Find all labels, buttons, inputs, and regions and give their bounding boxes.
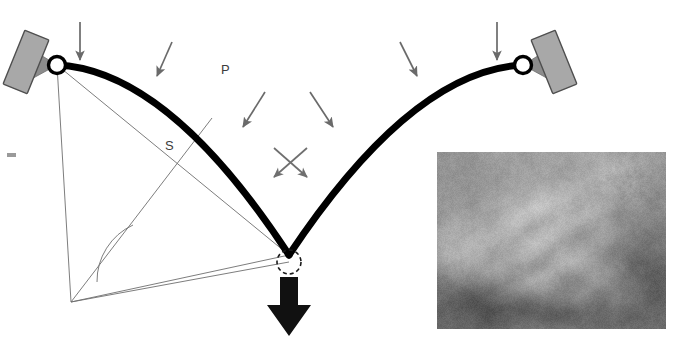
geometry-line-chord-pin-apex [57, 65, 289, 255]
construction-lines [57, 65, 289, 302]
thrust-arrow [267, 277, 311, 336]
geometry-line-base-joint [71, 262, 289, 302]
distributed-load-arrows [80, 22, 497, 127]
load-label-p: P [221, 62, 230, 77]
load-arrow-5 [400, 42, 417, 76]
left-edge-mark [7, 153, 16, 157]
load-arrow-3 [243, 92, 265, 127]
geometry-line-base-apex [71, 255, 289, 302]
angle-arc [97, 225, 133, 282]
right-pin-joint [515, 57, 532, 74]
anatomical-photo-inset [437, 152, 666, 329]
geometry-line-left-vertical [57, 65, 71, 302]
photo-canvas [437, 152, 666, 329]
crossed-arrows [274, 148, 307, 177]
geometry-line-radius-tangent [71, 118, 212, 302]
load-arrow-2 [157, 42, 172, 76]
left-pin-joint [49, 57, 66, 74]
load-arrow-4 [310, 92, 333, 127]
span-label-s: S [165, 138, 174, 153]
figure-canvas: P S [0, 0, 675, 342]
